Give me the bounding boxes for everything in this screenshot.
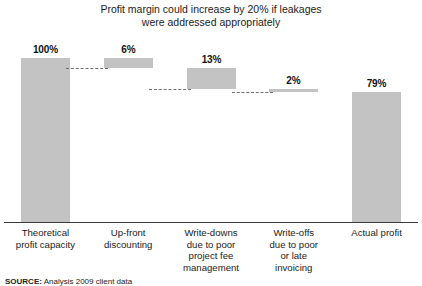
- bar-1: [104, 58, 153, 68]
- category-label-0: Theoretical profit capacity: [4, 227, 87, 273]
- bar-value-label-3: 2%: [263, 75, 324, 86]
- source-text: Analysis 2009 client data: [44, 277, 133, 286]
- source-prefix: SOURCE:: [5, 277, 42, 286]
- x-axis-line: [4, 222, 418, 223]
- connector-1: [149, 89, 191, 90]
- category-label-2: Write-downs due to poor project fee mana…: [170, 227, 253, 273]
- bar-0: [21, 58, 70, 222]
- plot-area: 100%6%13%2%79%: [0, 0, 422, 224]
- source-note: SOURCE: Analysis 2009 client data: [5, 277, 132, 286]
- category-label-3: Write-offs due to poor or late invoicing: [252, 227, 335, 273]
- category-label-4: Actual profit: [335, 227, 418, 273]
- connector-0: [66, 68, 108, 69]
- bar-3: [269, 89, 318, 92]
- waterfall-chart: Profit margin could increase by 20% if l…: [0, 0, 422, 286]
- connector-2: [232, 92, 273, 93]
- bar-value-label-0: 100%: [15, 44, 76, 55]
- category-label-1: Up-front discounting: [87, 227, 170, 273]
- bar-value-label-1: 6%: [98, 44, 159, 55]
- category-label-row: Theoretical profit capacity Up-front dis…: [4, 227, 418, 273]
- bar-value-label-4: 79%: [346, 78, 407, 89]
- bar-4: [352, 92, 401, 222]
- bar-2: [187, 68, 236, 89]
- bar-value-label-2: 13%: [181, 54, 242, 65]
